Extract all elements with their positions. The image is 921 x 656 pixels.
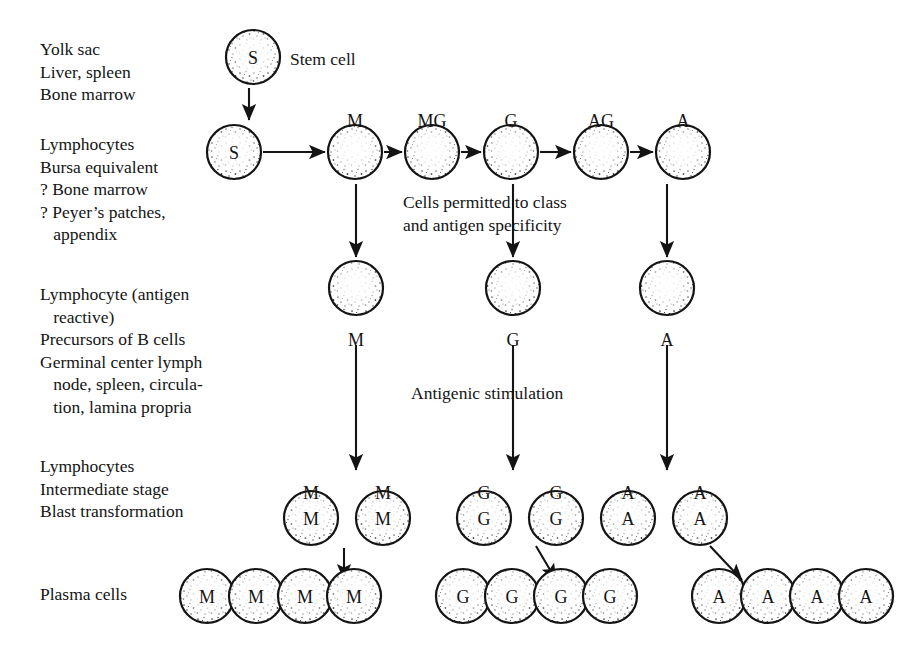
stem-cell-row-cell: S [226,30,280,84]
annot-stem-cell: Stem cell [290,48,356,71]
annot-antigenic: Antigenic stimulation [411,382,563,405]
plasma-cell-row-cell-letter: G [555,587,568,607]
committed-precursor-row-label-above: MG [417,112,446,130]
committed-precursor-row-cell [574,125,628,179]
stage-origin: Yolk sac Liver, spleen Bone marrow [40,38,136,106]
plasma-cell-row-cell-letter: A [860,587,873,607]
plasma-cell-row-cell-letter: M [346,587,362,607]
plasma-cell-row-cell-letter: M [248,587,264,607]
committed-precursor-row-label-above: G [505,112,518,130]
intermediate-blast-row-cell-letter: A [694,509,707,529]
plasma-cell-row-cell: M [327,569,381,623]
plasma-cell-row-cell-letter: A [762,587,775,607]
antigen-reactive-row-label-below: G [507,331,520,349]
committed-precursor-row-cell-letter: S [229,143,239,163]
plasma-cell-row-cell: M [180,569,234,623]
plasma-cell-row-cell: G [436,569,490,623]
stage-intermediate: Lymphocytes Intermediate stage Blast tra… [40,455,183,523]
antigen-reactive-row-cell [486,261,540,315]
antigen-reactive-row-label-below: M [348,331,364,349]
intermediate-blast-row-label-above: G [478,484,491,502]
plasma-cell-row-cell: M [278,569,332,623]
antigen-reactive-row-cell [640,261,694,315]
committed-precursor-row-cell [484,125,538,179]
plasma-cell-row-cell-letter: G [506,587,519,607]
cell-layer: SSMMGGAAMMMMGGGGAAAA [180,30,893,623]
plasma-cell-row-cell-letter: M [297,587,313,607]
plasma-cell-row-cell-letter: G [457,587,470,607]
plasma-cell-row-cell: A [741,569,795,623]
antigen-reactive-row-cell [329,261,383,315]
intermediate-blast-row-label-above: G [550,484,563,502]
plasma-cell-row-cell-letter: G [604,587,617,607]
intermediate-blast-row-label-above: M [303,484,319,502]
plasma-cell-row-cell: A [692,569,746,623]
plasma-cell-row-cell: M [229,569,283,623]
committed-precursor-row-cell [328,125,382,179]
plasma-cell-row-cell-letter: A [811,587,824,607]
stem-cell-row-cell-letter: S [248,48,258,68]
stage-plasma: Plasma cells [40,583,127,606]
plasma-cell-row-cell-letter: A [713,587,726,607]
committed-precursor-row-cell [405,125,459,179]
intermediate-blast-row-cell-letter: G [550,509,563,529]
committed-precursor-row-label-above: M [347,112,363,130]
plasma-cell-row-cell: A [790,569,844,623]
intermediate-blast-row-cell-letter: M [303,509,319,529]
intermediate-blast-row-cell-letter: G [478,509,491,529]
stage-lymphocytes: Lymphocytes Bursa equivalent ? Bone marr… [40,133,166,246]
plasma-cell-row-cell: G [583,569,637,623]
intermediate-blast-row-cell-letter: M [375,509,391,529]
plasma-cell-row-cell: A [839,569,893,623]
intermediate-blast-row-label-above: A [694,484,707,502]
stage-antigen-reactive: Lymphocyte (antigen reactive) Precursors… [40,283,203,418]
plasma-cell-row-cell: G [534,569,588,623]
annot-permitted: Cells permitted to class and antigen spe… [403,191,567,236]
antigen-reactive-row-label-below: A [661,331,674,349]
plasma-cell-row-cell-letter: M [199,587,215,607]
diagram-canvas: SSMMGGAAMMMMGGGGAAAA Yolk sac Liver, spl… [0,0,921,656]
committed-precursor-row-label-above: A [677,112,690,130]
intermediate-blast-row-cell-letter: A [622,509,635,529]
intermediate-blast-row-label-above: M [375,484,391,502]
plasma-cell-row-cell: G [485,569,539,623]
committed-precursor-row-cell: S [207,125,261,179]
committed-precursor-row-cell [656,125,710,179]
intermediate-blast-row-label-above: A [622,484,635,502]
committed-precursor-row-label-above: AG [588,112,614,130]
